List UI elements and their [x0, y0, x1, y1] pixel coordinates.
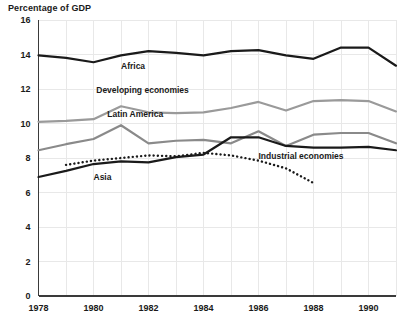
series-inline-labels: AfricaDeveloping economiesLatin AmericaA… [94, 61, 344, 181]
y-axis-tick-label: 16 [20, 15, 30, 25]
x-axis-tick-label: 1982 [138, 303, 158, 313]
x-axis-tick-labels: 1978198019821984198619881990 [28, 303, 378, 313]
x-axis-tick-label: 1988 [303, 303, 323, 313]
series-label-latin-america: Latin America [107, 109, 163, 119]
series-label-industrial-economies: Industrial economies [259, 151, 344, 161]
chart-container: Percentage of GDP 0246810121416 19781980… [0, 0, 408, 324]
y-axis-tick-label: 2 [25, 257, 30, 267]
y-axis-tick-label: 8 [25, 153, 30, 163]
series-label-africa: Africa [121, 61, 145, 71]
y-axis-tick-label: 10 [20, 119, 30, 129]
y-axis-tick-labels: 0246810121416 [20, 15, 30, 301]
y-axis-tick-label: 12 [20, 84, 30, 94]
series-line-developing-economies [39, 100, 397, 122]
y-axis-tick-label: 14 [20, 50, 30, 60]
series-label-developing-economies: Developing economies [96, 85, 189, 95]
y-axis-tick-label: 6 [25, 188, 30, 198]
x-axis-tick-label: 1980 [83, 303, 103, 313]
x-axis-tick-label: 1986 [248, 303, 268, 313]
x-axis-tick-label: 1990 [358, 303, 378, 313]
y-axis-tick-label: 4 [25, 222, 30, 232]
series-line-africa [39, 48, 397, 66]
line-chart-plot: 0246810121416 19781980198219841986198819… [0, 0, 408, 324]
data-series [39, 48, 397, 183]
y-axis-tick-label: 0 [25, 291, 30, 301]
x-axis-tick-label: 1984 [193, 303, 213, 313]
series-label-asia: Asia [94, 172, 112, 182]
x-axis-tick-label: 1978 [28, 303, 48, 313]
